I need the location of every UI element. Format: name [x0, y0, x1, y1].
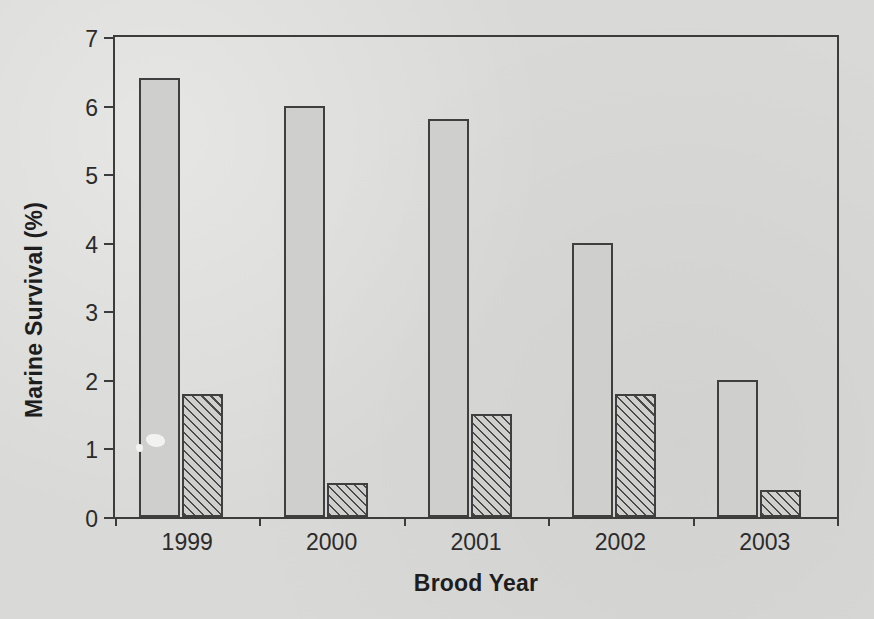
bar-2000-series-1-solid — [284, 106, 325, 517]
y-tick-label: 6 — [85, 96, 98, 119]
x-tick-mark — [404, 517, 406, 526]
x-tick-label-2000: 2000 — [306, 531, 357, 554]
bar-2000-series-2-hatched — [327, 483, 368, 517]
bar-2001-series-2-hatched — [471, 414, 512, 517]
x-axis-title: Brood Year — [414, 570, 538, 597]
y-tick-mark: 1 — [104, 448, 115, 450]
y-tick-mark: 5 — [104, 174, 115, 176]
y-tick-label: 0 — [85, 508, 98, 531]
y-tick-label: 4 — [85, 233, 98, 256]
y-tick-mark: 0 — [104, 517, 115, 519]
y-tick-mark: 3 — [104, 311, 115, 313]
figure-canvas: Marine Survival (%) 01234567199920002001… — [0, 0, 874, 619]
bar-2002-series-1-solid — [572, 243, 613, 517]
bar-2002-series-2-hatched — [615, 394, 656, 517]
y-tick-label: 2 — [85, 370, 98, 393]
x-tick-label-2002: 2002 — [595, 531, 646, 554]
x-tick-mark — [837, 517, 839, 526]
bar-2003-series-2-hatched — [760, 490, 801, 517]
y-tick-label: 7 — [85, 28, 98, 51]
y-tick-mark: 7 — [104, 37, 115, 39]
bar-2001-series-1-solid — [428, 119, 469, 517]
x-tick-mark — [259, 517, 261, 526]
plot-area: 0123456719992000200120022003 — [115, 37, 837, 517]
x-tick-mark — [115, 517, 117, 526]
y-tick-label: 1 — [85, 439, 98, 462]
x-tick-mark — [693, 517, 695, 526]
y-tick-mark: 2 — [104, 380, 115, 382]
x-tick-label-1999: 1999 — [162, 531, 213, 554]
bar-2003-series-1-solid — [717, 380, 758, 517]
y-tick-mark: 4 — [104, 243, 115, 245]
y-tick-label: 5 — [85, 165, 98, 188]
plot-frame: 0123456719992000200120022003 — [113, 35, 839, 519]
bar-1999-series-2-hatched — [182, 394, 223, 517]
y-tick-mark: 6 — [104, 106, 115, 108]
y-tick-label: 3 — [85, 302, 98, 325]
x-tick-label-2001: 2001 — [450, 531, 501, 554]
x-tick-mark — [548, 517, 550, 526]
y-axis-title: Marine Survival (%) — [21, 202, 48, 418]
bar-1999-series-1-solid — [139, 78, 180, 517]
x-tick-label-2003: 2003 — [739, 531, 790, 554]
